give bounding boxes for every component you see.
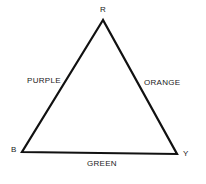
- vertex-label-r: R: [100, 6, 106, 14]
- vertex-label-b: B: [11, 146, 17, 154]
- edge-label-green: GREEN: [87, 160, 117, 168]
- edge-label-orange: ORANGE: [144, 79, 180, 87]
- vertex-label-y: Y: [183, 150, 189, 158]
- triangle-diagram: [0, 0, 206, 184]
- triangle-outline: [22, 20, 177, 154]
- edge-label-purple: PURPLE: [27, 77, 61, 85]
